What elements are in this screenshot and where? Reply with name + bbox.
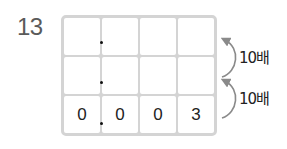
grid-cell-r0-c2[interactable] — [140, 18, 176, 55]
grid-cell-r1-c2[interactable] — [140, 57, 176, 94]
decimal-point-row-2 — [100, 122, 103, 125]
decimal-point-row-1 — [100, 81, 103, 84]
grid-cell-r0-c3[interactable] — [178, 18, 214, 55]
problem-number: 13 — [17, 13, 43, 41]
arrow-label-lower: 10배 — [239, 87, 269, 108]
grid-cell-r2-c1: 0 — [102, 96, 138, 133]
grid-cell-r2-c3: 3 — [178, 96, 214, 133]
place-value-grid: 0 0 0 3 — [61, 15, 217, 136]
grid-cell-r1-c3[interactable] — [178, 57, 214, 94]
grid-cell-r1-c1[interactable] — [102, 57, 138, 94]
decimal-point-row-0 — [100, 41, 103, 44]
grid-cell-r0-c1[interactable] — [102, 18, 138, 55]
grid-cell-r1-c0[interactable] — [64, 57, 100, 94]
grid-cell-r2-c2: 0 — [140, 96, 176, 133]
grid-cell-r2-c0: 0 — [64, 96, 100, 133]
arrow-label-upper: 10배 — [239, 46, 269, 67]
grid-cell-r0-c0[interactable] — [64, 18, 100, 55]
